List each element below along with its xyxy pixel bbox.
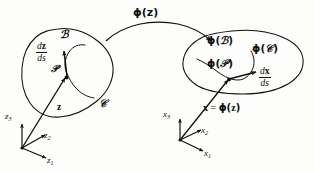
axis-label-z1-sub: 1 — [51, 160, 54, 166]
deformed-point-label: ϕ(𝒫) — [207, 58, 233, 70]
deformation-diagram: ϕ(z) ℬ dz ds 𝒫 𝒞 z z3 z2 z1 ϕ(ℬ) ϕ(𝒞) ϕ(… — [0, 0, 315, 172]
axis-label-x2: x2 — [201, 126, 208, 136]
axis-label-z3: z3 — [5, 112, 12, 122]
reference-tangent-var: z — [42, 41, 46, 51]
reference-position-vector-label: z — [57, 103, 61, 113]
reference-point-marker — [65, 76, 69, 80]
deformed-tangent-var: x — [265, 66, 270, 76]
axis-label-x3: x3 — [163, 110, 170, 120]
axis-label-x3-sub: 3 — [167, 114, 170, 120]
axis-label-x2-sub: 2 — [205, 130, 208, 136]
deformed-tangent-label: dx ds — [259, 67, 271, 89]
deformed-tangent-numerator: dx — [259, 67, 271, 77]
deformed-tangent-arrow — [229, 72, 256, 79]
deformed-curve-arg: 𝒞 — [265, 42, 273, 54]
deformed-curve-label: ϕ(𝒞) — [252, 43, 278, 55]
axis-label-z3-sub: 3 — [9, 116, 12, 122]
reference-curve-label: 𝒞 — [99, 98, 107, 109]
mapping-arrow — [106, 22, 211, 41]
reference-tangent-label: dz ds — [36, 42, 47, 64]
axis-label-z1: z1 — [47, 156, 54, 166]
axis-label-x1-sub: 1 — [208, 153, 211, 159]
reference-curve — [65, 45, 94, 98]
deformed-point-arg: 𝒫 — [220, 57, 228, 69]
axis-label-z2: z2 — [44, 131, 51, 141]
axis-label-x1: x1 — [204, 149, 211, 159]
reference-point-label: 𝒫 — [51, 64, 58, 74]
relation-rhs-phi: ϕ — [219, 102, 227, 113]
reference-tangent-numerator: dz — [36, 42, 47, 52]
deformed-body-arg: ℬ — [220, 34, 228, 46]
deformed-axes-triad — [178, 119, 203, 151]
deformed-position-relation: x = ϕ(z) — [203, 103, 240, 113]
mapping-arrow-label: ϕ(z) — [133, 7, 158, 18]
reference-body-label: ℬ — [60, 29, 69, 40]
axis-label-z2-sub: 2 — [48, 135, 51, 141]
reference-tangent-denominator: ds — [36, 54, 47, 64]
deformed-body-outline — [183, 30, 303, 94]
deformed-body-label: ϕ(ℬ) — [207, 35, 233, 47]
deformed-tangent-denominator: ds — [259, 79, 271, 89]
deformed-point-marker — [227, 78, 231, 82]
